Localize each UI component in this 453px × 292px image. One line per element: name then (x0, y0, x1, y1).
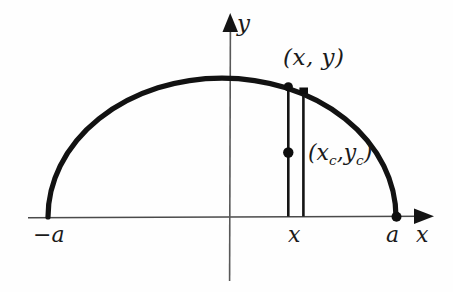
centroid-label-x: x (317, 140, 329, 165)
x-axis-line (28, 216, 428, 218)
centroid-dot (283, 147, 293, 157)
centroid-label-y: y (344, 140, 356, 165)
y-axis-label: y (237, 12, 250, 35)
y-axis-arrowhead (223, 13, 239, 32)
figure-root: (x, y) (xc,yc) −a x a x y (0, 0, 453, 292)
point-on-curve-label: (x, y) (283, 46, 345, 69)
centroid-label-close: ) (364, 140, 373, 165)
right-endpoint-dot (392, 212, 402, 222)
centroid-label-x-sub: c (329, 152, 337, 168)
right-endpoint-label: a (386, 224, 399, 246)
centroid-label-open: ( (308, 140, 317, 165)
centroid-label: (xc,yc) (308, 142, 372, 168)
left-endpoint-label: −a (33, 224, 65, 246)
centroid-label-y-sub: c (356, 152, 364, 168)
semicircle-diagram-svg (0, 0, 453, 292)
x-axis-label: x (416, 224, 428, 246)
y-axis-line (230, 26, 231, 281)
strip-right-curve-marker (299, 88, 308, 94)
x-tick-label: x (288, 224, 300, 246)
centroid-label-comma: , (337, 140, 344, 165)
point-on-curve-dot (284, 82, 293, 91)
